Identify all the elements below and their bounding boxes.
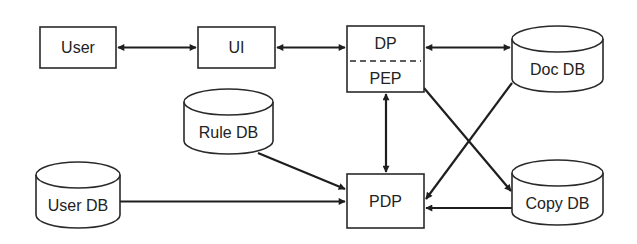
node-user-label: User <box>61 39 95 56</box>
edge-ruledb-pdp <box>258 153 345 189</box>
node-user-db: User DB <box>36 162 120 228</box>
node-copy-db-label: Copy DB <box>525 195 589 212</box>
node-pdp-label: PDP <box>369 193 402 210</box>
architecture-diagram: User UI DP PEP Doc DB Rule DB User DB PD… <box>0 0 637 244</box>
node-dp-label: DP <box>374 35 396 52</box>
node-pep-label: PEP <box>369 70 401 87</box>
node-dp-pep: DP PEP <box>347 26 424 92</box>
node-user-db-label: User DB <box>48 197 108 214</box>
node-ui-label: UI <box>229 39 245 56</box>
node-ui: UI <box>198 27 275 68</box>
node-rule-db: Rule DB <box>184 89 273 154</box>
edges <box>118 48 512 209</box>
node-pdp: PDP <box>347 174 424 228</box>
node-user: User <box>40 27 116 68</box>
node-doc-db: Doc DB <box>512 26 603 92</box>
node-copy-db: Copy DB <box>512 160 603 225</box>
node-rule-db-label: Rule DB <box>199 124 259 141</box>
node-doc-db-label: Doc DB <box>530 61 585 78</box>
edge-docdb-pdp <box>426 83 512 199</box>
